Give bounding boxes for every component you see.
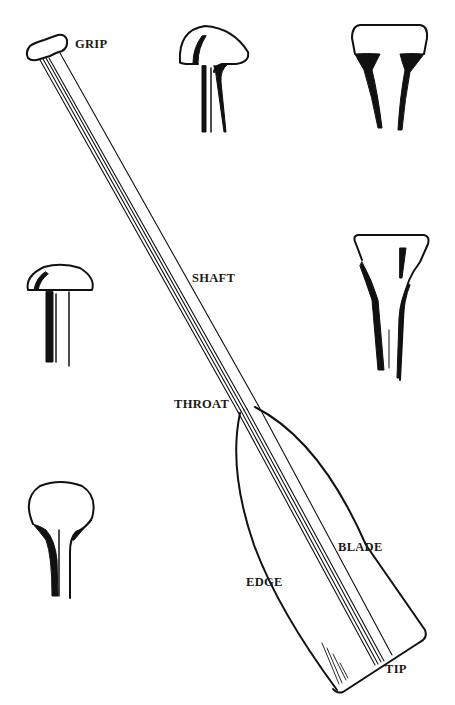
grip-variant-mushroom-left	[28, 265, 93, 366]
paddle-grip	[27, 35, 67, 60]
grip-variant-bulb-left	[29, 482, 94, 598]
label-throat: THROAT	[174, 397, 229, 412]
grip-variant-flared-top	[352, 25, 427, 130]
paddle-shaft	[40, 53, 258, 412]
grip-variant-dome-top	[180, 26, 248, 132]
grip-variant-tapered-right	[354, 235, 428, 380]
label-tip: TIP	[385, 662, 407, 677]
label-blade: BLADE	[338, 540, 383, 555]
label-edge: EDGE	[246, 575, 283, 590]
paddle-diagram	[0, 0, 455, 705]
paddle-blade	[236, 405, 426, 693]
label-shaft: SHAFT	[192, 271, 235, 286]
label-grip: GRIP	[75, 37, 107, 52]
